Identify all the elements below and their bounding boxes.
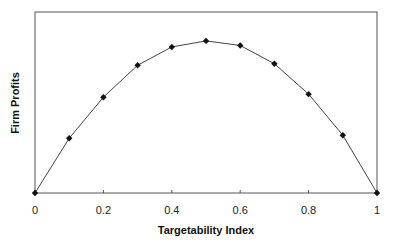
y-axis-title: Firm Profits	[9, 72, 21, 134]
x-tick-label: 0.2	[96, 204, 111, 216]
line-chart: 00.20.40.60.81 Targetability Index Firm …	[0, 0, 393, 246]
x-tick-label: 0	[32, 204, 38, 216]
x-axis-title: Targetability Index	[158, 224, 255, 236]
x-tick-label: 0.4	[164, 204, 179, 216]
x-tick-label: 1	[374, 204, 380, 216]
x-axis-ticks: 00.20.40.60.81	[32, 190, 380, 216]
x-tick-label: 0.8	[301, 204, 316, 216]
x-tick-label: 0.6	[233, 204, 248, 216]
